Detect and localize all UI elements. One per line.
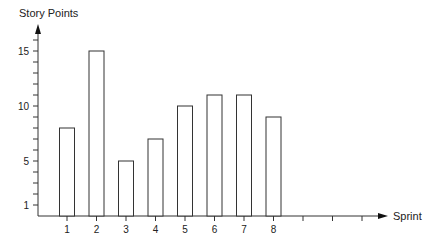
bar-sprint-7 (237, 95, 252, 216)
x-tick-label: 3 (123, 224, 129, 235)
bar-sprint-2 (89, 51, 104, 216)
bar-sprint-5 (178, 106, 193, 216)
x-tick-label: 8 (271, 224, 277, 235)
bar-sprint-1 (60, 128, 75, 216)
x-tick-label: 1 (64, 224, 70, 235)
y-tick-label: 1 (23, 200, 29, 211)
bar-sprint-6 (207, 95, 222, 216)
x-tick-label: 6 (212, 224, 218, 235)
y-tick-label: 15 (18, 46, 30, 57)
y-axis-label: Story Points (19, 7, 79, 19)
x-tick-label: 4 (153, 224, 159, 235)
bar-chart: Story Points Sprint 15101512345678 (0, 0, 437, 246)
x-tick-label: 7 (241, 224, 247, 235)
x-tick-label: 5 (182, 224, 188, 235)
bar-sprint-4 (148, 139, 163, 216)
bar-sprint-3 (119, 161, 134, 216)
bars (60, 51, 282, 216)
y-tick-label: 10 (18, 101, 30, 112)
bar-sprint-8 (266, 117, 281, 216)
x-tick-label: 2 (94, 224, 100, 235)
x-axis-arrow-icon (378, 213, 388, 219)
y-axis-arrow-icon (35, 24, 41, 34)
y-tick-label: 5 (23, 156, 29, 167)
x-axis-label: Sprint (393, 210, 422, 222)
